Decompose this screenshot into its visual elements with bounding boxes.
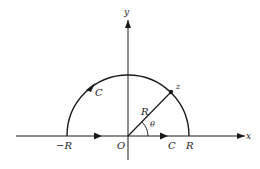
arc-contour-label: C (95, 88, 103, 98)
segment-contour-label: C (168, 141, 176, 151)
radius-label: R (141, 107, 149, 117)
x-axis-arrowhead-icon (237, 133, 245, 139)
segment-arrow-right-icon (160, 133, 168, 140)
segment-arrow-left-icon (94, 133, 102, 140)
y-axis-label: y (124, 8, 129, 17)
contour-diagram (0, 0, 260, 169)
radius-line (128, 92, 171, 136)
point-z-dot (169, 90, 173, 94)
x-axis-label: x (246, 132, 251, 141)
neg-radius-label: −R (56, 141, 72, 151)
y-axis-arrowhead-icon (125, 20, 131, 28)
origin-label: O (117, 141, 125, 151)
point-z-label: z (176, 83, 180, 91)
angle-theta-arc (142, 122, 148, 136)
angle-theta-label: θ (150, 121, 155, 129)
pos-radius-label: R (186, 141, 194, 151)
